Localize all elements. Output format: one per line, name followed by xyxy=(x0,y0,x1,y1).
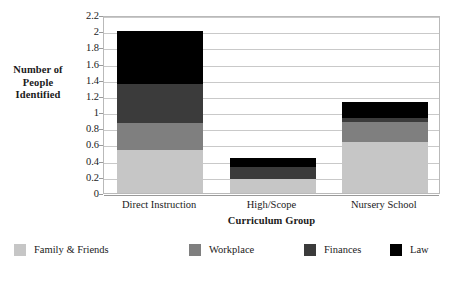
legend-label: Family & Friends xyxy=(34,244,109,256)
bar-segment[interactable] xyxy=(342,118,428,122)
y-axis-tick-mark xyxy=(99,48,103,49)
bar-segment[interactable] xyxy=(117,84,203,123)
bar-segment[interactable] xyxy=(342,122,428,142)
y-axis-tick-label: 2.2 xyxy=(62,11,99,22)
bar-series-container xyxy=(104,17,439,193)
legend-item[interactable]: Finances xyxy=(304,244,361,256)
y-axis-tick-mark xyxy=(99,178,103,179)
y-axis-tick-mark xyxy=(99,16,103,17)
bar-segment[interactable] xyxy=(342,102,428,118)
bar-stack[interactable] xyxy=(342,15,428,193)
x-axis-title: Curriculum Group xyxy=(103,214,440,227)
legend-label: Law xyxy=(410,244,429,256)
y-axis-tick-label: 0.8 xyxy=(62,124,99,135)
bar-segment[interactable] xyxy=(117,123,203,151)
gridline xyxy=(104,195,439,196)
legend-swatch-icon xyxy=(189,244,201,256)
chart-legend: Family & FriendsWorkplaceFinancesLaw xyxy=(0,244,461,264)
stacked-bar-chart: Number of People Identified 00.20.40.60.… xyxy=(0,0,461,281)
x-axis-tick-labels: Direct InstructionHigh/ScopeNursery Scho… xyxy=(103,198,440,214)
y-axis-tick-label: 1.4 xyxy=(62,76,99,87)
bar-segment[interactable] xyxy=(230,158,316,167)
y-axis-tick-mark xyxy=(99,65,103,66)
legend-label: Finances xyxy=(324,244,361,256)
y-axis-tick-mark xyxy=(99,113,103,114)
y-axis-tick-label: 2 xyxy=(62,27,99,38)
bar-segment[interactable] xyxy=(230,179,316,193)
y-axis-tick-mark xyxy=(99,32,103,33)
y-axis-tick-mark xyxy=(99,194,103,195)
y-axis-tick-label: 0.2 xyxy=(62,173,99,184)
legend-swatch-icon xyxy=(390,244,402,256)
bar-segment[interactable] xyxy=(230,167,316,179)
plot-area xyxy=(103,16,440,194)
y-axis-tick-labels: 00.20.40.60.811.21.41.61.822.2 xyxy=(62,16,99,194)
legend-item[interactable]: Family & Friends xyxy=(14,244,109,256)
legend-item[interactable]: Workplace xyxy=(189,244,254,256)
x-axis-tick-label: Nursery School xyxy=(328,198,440,211)
legend-item[interactable]: Law xyxy=(390,244,429,256)
legend-swatch-icon xyxy=(14,244,26,256)
bar-segment[interactable] xyxy=(117,150,203,193)
y-axis-tick-label: 1 xyxy=(62,108,99,119)
legend-swatch-icon xyxy=(304,244,316,256)
y-axis-tick-mark xyxy=(99,145,103,146)
y-axis-tick-mark xyxy=(99,97,103,98)
y-axis-tick-label: 1.2 xyxy=(62,92,99,103)
bar-stack[interactable] xyxy=(230,15,316,193)
y-axis-tick-mark xyxy=(99,162,103,163)
y-axis-tick-label: 1.6 xyxy=(62,60,99,71)
y-axis-tick-label: 0.4 xyxy=(62,157,99,168)
bar-segment[interactable] xyxy=(342,142,428,193)
x-axis-tick-label: Direct Instruction xyxy=(103,198,215,211)
y-axis-tick-mark xyxy=(99,129,103,130)
y-axis-tick-label: 0.6 xyxy=(62,140,99,151)
bar-segment[interactable] xyxy=(117,31,203,84)
y-axis-tick-label: 0 xyxy=(62,189,99,200)
y-axis-tick-label: 1.8 xyxy=(62,43,99,54)
bar-stack[interactable] xyxy=(117,15,203,193)
x-axis-tick-label: High/Scope xyxy=(215,198,327,211)
y-axis-tick-mark xyxy=(99,81,103,82)
legend-label: Workplace xyxy=(209,244,254,256)
